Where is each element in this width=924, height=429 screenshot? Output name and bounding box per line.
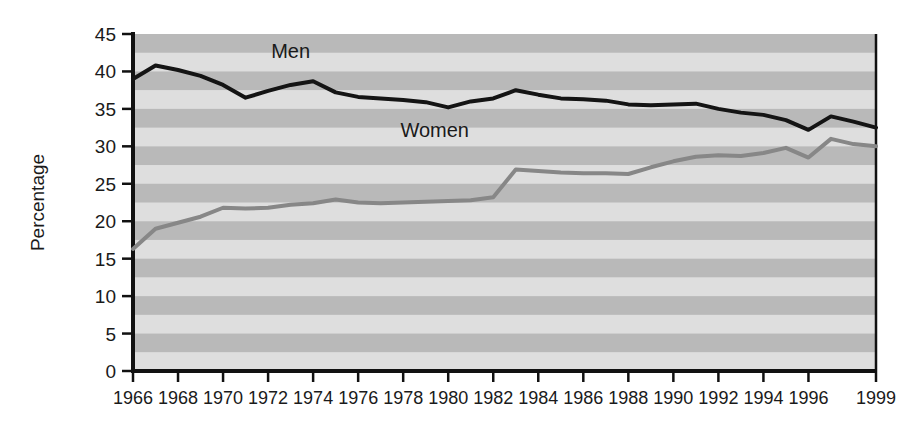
line-chart: 051015202530354045 196619681970197219741… bbox=[0, 0, 924, 429]
y-tick-label: 45 bbox=[95, 24, 116, 45]
series-label-women: Women bbox=[400, 119, 469, 141]
background-band bbox=[133, 71, 876, 90]
background-band bbox=[133, 315, 876, 334]
background-band bbox=[133, 259, 876, 278]
x-tick-label: 1986 bbox=[563, 388, 603, 408]
background-band bbox=[133, 109, 876, 128]
background-band bbox=[133, 334, 876, 353]
background-band bbox=[133, 277, 876, 296]
y-axis-ticks: 051015202530354045 bbox=[95, 24, 133, 382]
y-tick-label: 30 bbox=[95, 136, 116, 157]
x-tick-label: 1966 bbox=[113, 388, 153, 408]
background-band bbox=[133, 240, 876, 259]
x-tick-label: 1976 bbox=[338, 388, 378, 408]
x-tick-label: 1999 bbox=[856, 388, 896, 408]
x-tick-label: 1992 bbox=[698, 388, 738, 408]
x-tick-label: 1972 bbox=[248, 388, 288, 408]
x-tick-label: 1974 bbox=[293, 388, 333, 408]
x-tick-label: 1990 bbox=[653, 388, 693, 408]
x-tick-label: 1984 bbox=[518, 388, 558, 408]
x-axis-ticks: 1966196819701972197419761978198019821984… bbox=[113, 371, 896, 408]
y-tick-label: 0 bbox=[105, 361, 116, 382]
y-tick-label: 15 bbox=[95, 249, 116, 270]
x-tick-label: 1994 bbox=[743, 388, 783, 408]
background-band bbox=[133, 34, 876, 53]
background-band bbox=[133, 221, 876, 240]
x-tick-label: 1980 bbox=[428, 388, 468, 408]
y-tick-label: 25 bbox=[95, 174, 116, 195]
y-tick-label: 35 bbox=[95, 99, 116, 120]
background-band bbox=[133, 146, 876, 165]
series-label-men: Men bbox=[271, 40, 310, 62]
y-axis-title: Percentage bbox=[27, 154, 48, 251]
background-band bbox=[133, 352, 876, 371]
y-tick-label: 20 bbox=[95, 211, 116, 232]
plot-background-bands bbox=[133, 34, 876, 372]
x-tick-label: 1996 bbox=[788, 388, 828, 408]
background-band bbox=[133, 296, 876, 315]
y-tick-label: 40 bbox=[95, 61, 116, 82]
x-tick-label: 1988 bbox=[608, 388, 648, 408]
x-tick-label: 1970 bbox=[203, 388, 243, 408]
chart-container: 051015202530354045 196619681970197219741… bbox=[0, 0, 924, 429]
x-tick-label: 1978 bbox=[383, 388, 423, 408]
x-tick-label: 1968 bbox=[158, 388, 198, 408]
background-band bbox=[133, 128, 876, 147]
y-tick-label: 10 bbox=[95, 286, 116, 307]
background-band bbox=[133, 184, 876, 203]
y-axis-title-text: Percentage bbox=[27, 154, 48, 251]
background-band bbox=[133, 53, 876, 72]
x-tick-label: 1982 bbox=[473, 388, 513, 408]
y-tick-label: 5 bbox=[105, 324, 116, 345]
background-band bbox=[133, 203, 876, 222]
